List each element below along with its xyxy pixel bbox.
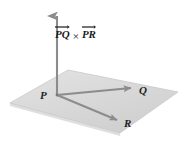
vector-overbar-arrow-icon bbox=[82, 25, 96, 29]
point-label-p: P bbox=[40, 90, 47, 101]
vector-label-pq: PQ bbox=[55, 25, 70, 40]
cross-product-expression: PQ × PR bbox=[55, 25, 96, 40]
cross-operator: × bbox=[70, 31, 82, 42]
point-p-marker bbox=[56, 94, 59, 97]
vector-pq-text: PQ bbox=[55, 28, 70, 40]
cross-product-figure: P Q R PQ × PR bbox=[0, 0, 187, 145]
point-label-r: R bbox=[124, 118, 131, 129]
vector-pr-text: PR bbox=[82, 28, 96, 40]
point-label-q: Q bbox=[139, 85, 147, 96]
vector-label-pr: PR bbox=[82, 25, 96, 40]
vector-overbar-arrow-icon bbox=[55, 25, 70, 29]
vector-diagram bbox=[0, 0, 187, 145]
plane-PQR bbox=[10, 70, 178, 133]
